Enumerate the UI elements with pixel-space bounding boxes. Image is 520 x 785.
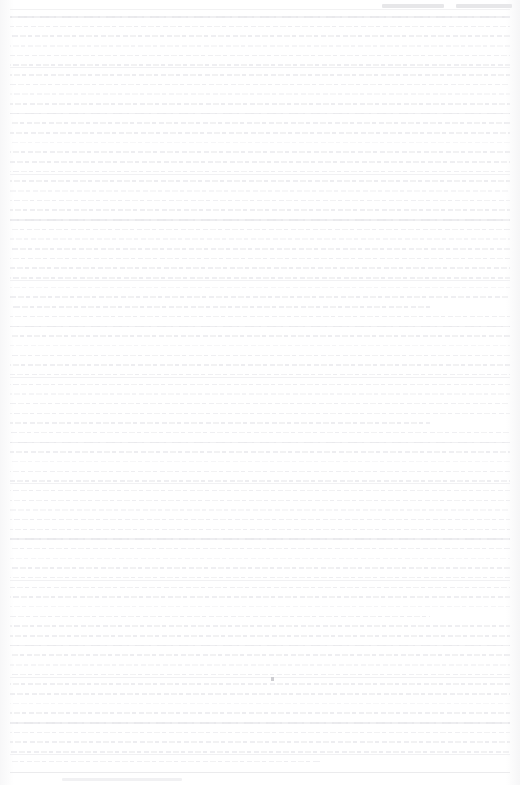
- text-line-ink: [10, 248, 510, 250]
- text-line: [10, 641, 510, 651]
- text-line: [10, 399, 510, 409]
- text-line: [10, 476, 510, 486]
- text-line: [10, 225, 510, 235]
- text-line-ink: [10, 180, 510, 182]
- text-line: [10, 496, 510, 506]
- text-line-ink: [10, 741, 510, 743]
- text-line-ink: [10, 229, 510, 231]
- text-line-ink: [10, 296, 510, 298]
- text-line-ink: [10, 625, 510, 627]
- text-line-ink: [10, 384, 510, 386]
- header-segment-left: [382, 4, 444, 8]
- text-line-ink: [10, 529, 510, 531]
- text-line-ink: [10, 393, 510, 395]
- text-line: [10, 51, 510, 61]
- text-line: [10, 563, 510, 573]
- text-line-ink: [10, 674, 510, 676]
- text-line-ink: [10, 490, 510, 492]
- text-line-ink: [10, 93, 510, 95]
- text-line-ink: [10, 84, 510, 86]
- text-line-ink: [10, 683, 510, 685]
- text-line: [10, 592, 510, 602]
- text-line: [10, 147, 510, 157]
- text-line: [10, 554, 510, 564]
- text-line-ink: [10, 258, 510, 260]
- text-line: [10, 109, 510, 119]
- text-line: [10, 708, 510, 718]
- text-line-ink: [10, 335, 510, 337]
- text-line-ink: [10, 306, 430, 308]
- text-line-ink: [10, 26, 510, 28]
- text-line-ink: [10, 587, 510, 589]
- text-line-ink: [10, 442, 510, 444]
- text-line: [10, 631, 510, 641]
- text-line-ink: [10, 432, 510, 434]
- text-line-ink: [10, 761, 320, 763]
- text-line: [10, 467, 510, 477]
- text-line: [10, 583, 510, 593]
- text-line-ink: [10, 132, 510, 134]
- text-line: [10, 89, 510, 99]
- text-line: [10, 283, 510, 293]
- text-line-ink: [10, 703, 510, 705]
- text-line: [10, 157, 510, 167]
- text-line-ink: [10, 103, 510, 105]
- text-line: [10, 322, 510, 332]
- text-line: [10, 331, 510, 341]
- text-line-ink: [10, 171, 510, 173]
- text-line: [10, 234, 510, 244]
- text-line-ink: [10, 74, 510, 76]
- text-line: [10, 205, 510, 215]
- text-line: [10, 670, 510, 680]
- text-line-ink: [10, 16, 510, 18]
- text-line-ink: [10, 480, 510, 482]
- text-line: [10, 409, 510, 419]
- text-line: [10, 22, 510, 32]
- text-line: [10, 447, 510, 457]
- text-line-ink: [10, 567, 510, 569]
- text-line: [10, 351, 510, 361]
- text-line: [10, 12, 510, 22]
- text-line-ink: [10, 693, 510, 695]
- text-line: [10, 757, 510, 767]
- footer-divider: [10, 772, 510, 773]
- text-line: [10, 486, 510, 496]
- text-line-ink: [10, 161, 510, 163]
- text-line: [10, 138, 510, 148]
- text-line: [10, 612, 510, 622]
- header-segment-right: [456, 4, 512, 8]
- text-line: [10, 689, 510, 699]
- text-line: [10, 457, 510, 467]
- text-line-ink: [10, 277, 510, 279]
- text-line-ink: [10, 326, 510, 328]
- text-line-ink: [10, 45, 510, 47]
- text-line: [10, 737, 510, 747]
- text-line: [10, 244, 510, 254]
- text-line-ink: [10, 55, 510, 57]
- text-line: [10, 292, 510, 302]
- text-line: [10, 167, 510, 177]
- text-line-ink: [10, 151, 510, 153]
- text-line-ink: [10, 732, 510, 734]
- text-line-ink: [10, 422, 430, 424]
- text-line: [10, 699, 510, 709]
- text-line-ink: [10, 722, 510, 724]
- page-footer: [62, 778, 182, 781]
- text-line: [10, 389, 510, 399]
- text-line-ink: [10, 413, 510, 415]
- text-line-ink: [10, 219, 510, 221]
- text-line: [10, 31, 510, 41]
- text-line-ink: [10, 509, 510, 511]
- text-line-ink: [10, 316, 510, 318]
- text-line: [10, 534, 510, 544]
- text-line: [10, 80, 510, 90]
- text-line-ink: [10, 500, 510, 502]
- text-line: [10, 302, 510, 312]
- text-line: [10, 263, 510, 273]
- page-header: [382, 2, 512, 9]
- text-line: [10, 505, 510, 515]
- text-line: [10, 128, 510, 138]
- text-line: [10, 728, 510, 738]
- text-line: [10, 273, 510, 283]
- text-line-ink: [10, 267, 510, 269]
